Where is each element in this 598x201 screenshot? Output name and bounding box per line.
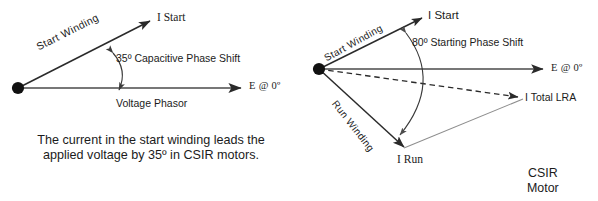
voltage-phasor-label: Voltage Phasor [116,97,187,109]
right-phase-shift-label: 80º Starting Phase Shift [412,36,523,48]
origin-dot [313,63,325,75]
phasor-geometry-layer [0,0,598,201]
motor-type-line-1: CSIR [527,166,559,181]
motor-type-label: CSIR Motor [527,166,559,195]
i-total-lra-vector [319,69,518,97]
motor-type-line-2: Motor [527,181,559,196]
left-voltage-axis-label: E @ 0º [249,80,281,92]
origin-dot [12,82,24,94]
right-i-start-label: I Start [428,9,459,23]
left-i-start-label: I Start [157,11,185,25]
caption-text: The current in the start winding leads t… [36,133,266,163]
left-phase-shift-label: 35º Capacitive Phase Shift [116,52,240,64]
right-voltage-axis-label: E @ 0º [551,62,583,74]
i-total-lra-label: I Total LRA [525,91,576,103]
parallelogram-leg [404,99,523,148]
diagram-canvas: I Start E @ 0º 35º Capacitive Phase Shif… [0,0,598,201]
i-run-label: I Run [397,153,423,167]
